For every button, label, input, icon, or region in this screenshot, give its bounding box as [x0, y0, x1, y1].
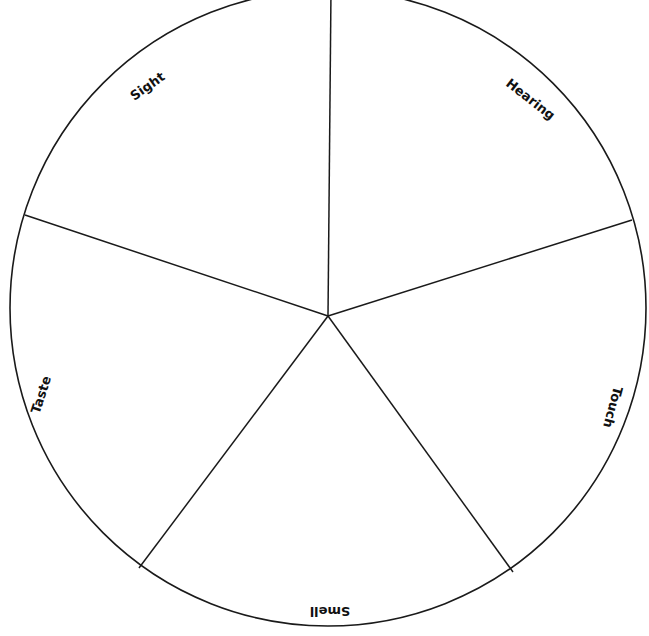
segment-label-hearing: Hearing	[503, 75, 558, 122]
spokes	[25, 0, 632, 572]
spoke-line	[328, 0, 331, 316]
segment-label-sight: Sight	[127, 69, 167, 103]
segment-label-taste: Taste	[28, 374, 54, 416]
segment-label-touch: Touch	[600, 385, 625, 430]
segment-labels: Sight Hearing Touch Smell Taste	[28, 69, 626, 619]
spoke-line	[328, 220, 632, 316]
senses-wheel-diagram: Sight Hearing Touch Smell Taste	[0, 0, 649, 636]
spoke-line	[25, 215, 328, 316]
spoke-line	[328, 316, 513, 572]
spoke-line	[139, 316, 328, 568]
segment-label-smell: Smell	[310, 604, 351, 619]
